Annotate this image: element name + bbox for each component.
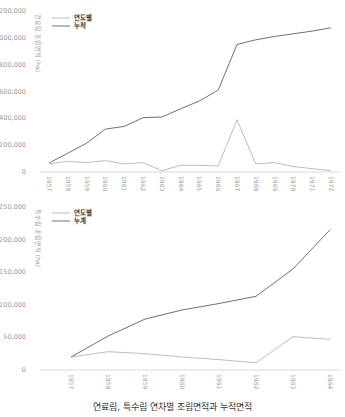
legend: 연도별누계 xyxy=(52,208,92,225)
y-tick-label: 200,000 xyxy=(0,236,26,244)
y-tick-label: 100,000 xyxy=(0,301,26,309)
y-tick-label: 1,000,000 xyxy=(0,34,26,42)
x-tick-label: 1971 xyxy=(309,176,316,191)
x-tick-label: 1972 xyxy=(328,176,335,191)
chart-special-forest: 050,000100,000150,000200,000250,000 특수림 … xyxy=(0,195,345,395)
x-tick-label: 1969 xyxy=(272,176,279,191)
x-tick-label: 1961 xyxy=(121,176,128,191)
x-tick-label: 1962 xyxy=(140,176,147,191)
y-tick-label: 600,000 xyxy=(0,88,26,96)
x-tick-label: 1961 xyxy=(216,374,223,389)
legend-label: 연도별 xyxy=(74,13,92,22)
x-tick-label: 1963 xyxy=(159,176,166,191)
x-tick-label: 1967 xyxy=(234,176,241,191)
plot-lines xyxy=(71,230,330,363)
y-tick-label: 150,000 xyxy=(0,268,26,276)
y-axis-label: 특수림 조림면적 (ha) xyxy=(34,209,42,267)
x-axis-ticks: 19571958195919601961196219631964 xyxy=(68,374,334,389)
y-tick-label: 250,000 xyxy=(0,203,26,211)
x-tick-label: 1958 xyxy=(65,176,72,191)
series-line xyxy=(71,337,330,363)
y-tick-label: 400,000 xyxy=(0,114,26,122)
x-axis-ticks: 1957195819591960196119621963196419651966… xyxy=(46,176,335,191)
y-tick-label: 50,000 xyxy=(3,333,26,341)
y-axis-ticks: 0200,000400,000600,000800,0001,000,0001,… xyxy=(0,7,26,176)
x-tick-label: 1963 xyxy=(290,374,297,389)
plot-lines xyxy=(49,28,331,171)
legend-label: 누계 xyxy=(74,216,86,225)
x-tick-label: 1970 xyxy=(290,176,297,191)
x-tick-label: 1968 xyxy=(253,176,260,191)
x-tick-label: 1966 xyxy=(215,176,222,191)
x-tick-label: 1965 xyxy=(196,176,203,191)
y-axis-ticks: 050,000100,000150,000200,000250,000 xyxy=(0,203,26,374)
x-tick-label: 1960 xyxy=(179,374,186,389)
y-tick-label: 200,000 xyxy=(0,141,26,149)
x-tick-label: 1960 xyxy=(102,176,109,191)
legend: 연도별누적 xyxy=(52,13,92,30)
series-line xyxy=(49,120,331,171)
y-axis-label: 연료림 조림면적 (ha) xyxy=(34,14,42,72)
y-tick-label: 0 xyxy=(22,168,26,176)
y-tick-label: 1,200,000 xyxy=(0,7,26,15)
legend-label: 연도별 xyxy=(74,208,92,217)
y-tick-label: 800,000 xyxy=(0,61,26,69)
y-tick-label: 0 xyxy=(22,366,26,374)
x-tick-label: 1964 xyxy=(178,176,185,191)
x-tick-label: 1957 xyxy=(68,374,75,389)
x-tick-label: 1957 xyxy=(46,176,53,191)
x-tick-label: 1959 xyxy=(142,374,149,389)
x-tick-label: 1964 xyxy=(327,374,334,389)
x-tick-label: 1958 xyxy=(105,374,112,389)
x-tick-label: 1959 xyxy=(84,176,91,191)
chart-fuelwood-forest: 0200,000400,000600,000800,0001,000,0001,… xyxy=(0,0,345,195)
figure-caption: 연료림, 특수림 연차별 조림면적과 누적면적 xyxy=(0,400,345,413)
series-line xyxy=(49,28,331,163)
legend-label: 누적 xyxy=(74,21,86,30)
x-tick-label: 1962 xyxy=(253,374,260,389)
